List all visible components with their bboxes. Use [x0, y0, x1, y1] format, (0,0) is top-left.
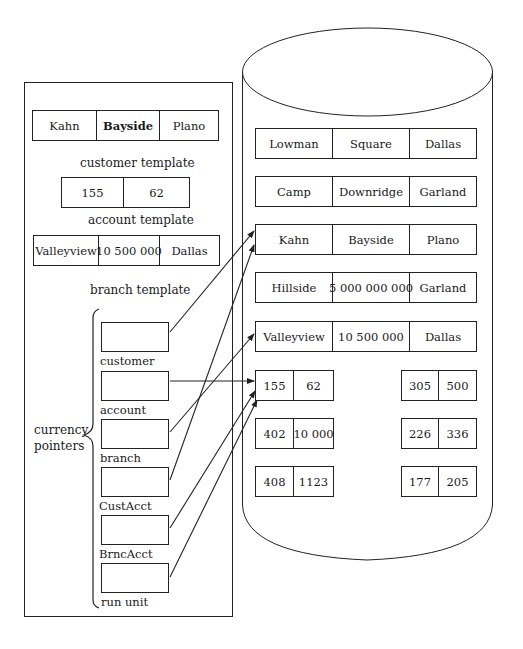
- arrow-custacct: [170, 245, 254, 480]
- db-record-camp: Camp Downridge Garland: [255, 176, 477, 207]
- branch-name-cell: Valleyview: [34, 236, 99, 265]
- customer-city-cell: Plano: [160, 111, 218, 140]
- customer-template-label: customer template: [80, 156, 195, 170]
- db-cell: 1123: [294, 467, 333, 496]
- branch-pointer-box: [101, 419, 169, 449]
- db-record-lowman: Lowman Square Dallas: [255, 128, 477, 159]
- db-cell: Valleyview: [256, 322, 333, 351]
- customer-pointer-box: [101, 322, 169, 352]
- custacct-pointer-box: [101, 467, 169, 497]
- db-cell: Square: [333, 129, 410, 158]
- db-cell: 408: [256, 467, 294, 496]
- db-account-177: 177 205: [401, 466, 477, 497]
- db-cell: 226: [402, 419, 439, 448]
- db-cell: Garland: [410, 177, 476, 206]
- db-cell: Dallas: [410, 129, 476, 158]
- db-cell: Camp: [256, 177, 333, 206]
- db-cell: 500: [439, 371, 476, 400]
- customer-street-cell: Bayside: [97, 111, 160, 140]
- db-cell: 336: [439, 419, 476, 448]
- run-unit-pointer-label: run unit: [101, 595, 148, 609]
- db-cell: Hillside: [256, 273, 333, 302]
- db-cell: Lowman: [256, 129, 333, 158]
- db-record-hillside: Hillside 5 000 000 000 Garland: [255, 272, 477, 303]
- db-record-valleyview: Valleyview 10 500 000 Dallas: [255, 321, 477, 352]
- db-cell: 402: [256, 419, 294, 448]
- account-template-label: account template: [88, 213, 194, 227]
- brncacct-pointer-box: [101, 515, 169, 545]
- db-cell: 10 500 000: [333, 322, 410, 351]
- branch-assets-cell: 10 500 000: [99, 236, 160, 265]
- customer-template-record: Kahn Bayside Plano: [32, 110, 219, 141]
- db-cell: 62: [294, 371, 333, 400]
- branch-pointer-label: branch: [100, 451, 141, 465]
- arrow-run-unit: [170, 400, 257, 577]
- db-cell: 177: [402, 467, 439, 496]
- db-cell: 205: [439, 467, 476, 496]
- db-cell: 305: [402, 371, 439, 400]
- currency-pointers-brace: [84, 309, 99, 608]
- customer-pointer-label: customer: [100, 354, 155, 368]
- db-cell: 10 000: [294, 419, 333, 448]
- db-cell: Kahn: [256, 225, 333, 254]
- currency-pointers-label-line2: pointers: [34, 439, 84, 453]
- db-account-226: 226 336: [401, 418, 477, 449]
- custacct-pointer-label: CustAcct: [99, 499, 152, 513]
- account-balance-cell: 62: [124, 178, 189, 207]
- db-cell: Bayside: [333, 225, 410, 254]
- db-account-408: 408 1123: [255, 466, 334, 497]
- db-cell: 5 000 000 000: [333, 273, 410, 302]
- branch-city-cell: Dallas: [160, 236, 219, 265]
- account-template-record: 155 62: [61, 177, 190, 208]
- account-pointer-label: account: [100, 403, 146, 417]
- branch-template-record: Valleyview 10 500 000 Dallas: [33, 235, 220, 266]
- database-cylinder-top: [243, 28, 493, 116]
- db-cell: Garland: [410, 273, 476, 302]
- db-cell: Dallas: [410, 322, 476, 351]
- db-account-305: 305 500: [401, 370, 477, 401]
- db-account-402: 402 10 000: [255, 418, 334, 449]
- db-cell: 155: [256, 371, 294, 400]
- run-unit-pointer-box: [101, 563, 169, 593]
- customer-name-cell: Kahn: [33, 111, 97, 140]
- db-cell: Plano: [410, 225, 476, 254]
- currency-pointers-label-line1: currency: [34, 423, 88, 437]
- db-account-155: 155 62: [255, 370, 334, 401]
- account-number-cell: 155: [62, 178, 124, 207]
- brncacct-pointer-label: BrncAcct: [99, 547, 153, 561]
- db-record-kahn: Kahn Bayside Plano: [255, 224, 477, 255]
- arrow-branch: [170, 334, 254, 432]
- account-pointer-box: [101, 371, 169, 401]
- db-cell: Downridge: [333, 177, 410, 206]
- branch-template-label: branch template: [90, 283, 190, 297]
